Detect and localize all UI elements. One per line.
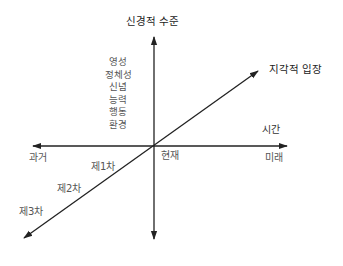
past-label: 과거	[29, 152, 47, 164]
level-item: 영성	[98, 56, 138, 69]
level-item: 정체성	[98, 69, 138, 82]
neurological-levels-list: 영성 정체성 신념 능력 행동 환경	[98, 56, 138, 132]
level-item: 신념	[98, 81, 138, 94]
level-item: 행동	[98, 106, 138, 119]
diagonal-perceptual-axis-arrow	[24, 71, 258, 238]
level-item: 환경	[98, 119, 138, 132]
position-first-label: 제1차	[91, 161, 115, 173]
time-axis-label: 시간	[262, 124, 280, 136]
level-item: 능력	[98, 94, 138, 107]
position-second-label: 제2차	[57, 183, 81, 195]
present-label: 현재	[161, 150, 179, 162]
axes-diagram	[0, 0, 343, 266]
position-third-label: 제3차	[19, 206, 43, 218]
future-label: 미래	[265, 152, 283, 164]
vertical-axis-title: 신경적 수준	[126, 15, 179, 27]
diagonal-axis-label: 지각적 입장	[269, 63, 322, 75]
